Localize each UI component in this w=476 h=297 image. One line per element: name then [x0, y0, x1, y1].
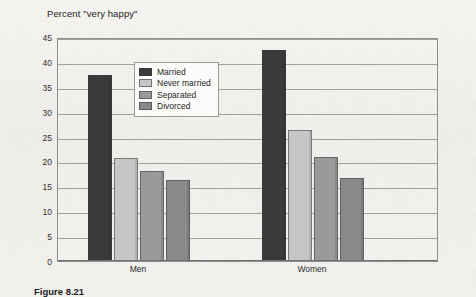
axis-baseline — [58, 260, 437, 261]
legend-label: Married — [157, 68, 186, 77]
y-axis-tick-30: 30 — [43, 108, 52, 118]
bar-divorced-men — [166, 180, 190, 261]
bar-separated-men — [140, 171, 164, 261]
bar-separated-women — [314, 157, 338, 261]
x-axis-label-men: Men — [130, 264, 147, 274]
legend-swatch-icon — [139, 68, 152, 76]
y-axis-tick-15: 15 — [43, 182, 52, 192]
y-axis-tick-45: 45 — [43, 33, 52, 43]
legend-swatch-icon — [139, 79, 152, 87]
legend-item-never-married: Never married — [139, 78, 211, 90]
bar-divorced-women — [340, 178, 364, 261]
y-axis-tick-25: 25 — [43, 133, 52, 143]
legend-label: Separated — [157, 91, 196, 100]
y-axis-tick-35: 35 — [43, 83, 52, 93]
figure-caption: Figure 8.21 — [34, 286, 84, 297]
x-axis-label-women: Women — [297, 264, 326, 274]
y-axis-tick-0: 0 — [47, 257, 52, 267]
bar-married-men — [88, 75, 112, 261]
legend-label: Never married — [157, 79, 211, 88]
legend-item-married: Married — [139, 66, 211, 78]
legend-item-separated: Separated — [139, 89, 211, 101]
legend-item-divorced: Divorced — [139, 101, 211, 113]
legend-swatch-icon — [139, 102, 152, 110]
y-axis-tick-40: 40 — [43, 58, 52, 68]
chart-title: Percent "very happy" — [47, 8, 138, 19]
bar-married-women — [262, 50, 286, 261]
y-axis-tick-5: 5 — [47, 232, 52, 242]
y-axis-tick-10: 10 — [43, 207, 52, 217]
chart-legend: MarriedNever marriedSeparatedDivorced — [134, 62, 219, 117]
legend-swatch-icon — [139, 91, 152, 99]
legend-label: Divorced — [157, 102, 191, 111]
y-axis-tick-20: 20 — [43, 157, 52, 167]
bars-layer — [58, 39, 437, 261]
plot-area — [57, 38, 438, 262]
bar-never-married-men — [114, 158, 138, 261]
bar-never-married-women — [288, 130, 312, 261]
